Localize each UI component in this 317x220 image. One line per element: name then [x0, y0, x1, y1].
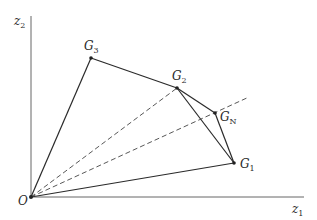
- point-origin: [29, 195, 33, 199]
- gn-label: GN: [220, 111, 237, 126]
- edge-o-g1: [31, 163, 234, 197]
- diagram-canvas: [0, 0, 317, 220]
- point-g1: [232, 161, 236, 165]
- edge-g3-g2: [91, 58, 177, 88]
- dashed-ray-o-g2: [31, 88, 177, 197]
- g2-label: G2: [172, 70, 187, 85]
- origin-label: O: [18, 195, 28, 207]
- point-g3: [89, 56, 93, 60]
- z1-axis-label: z1: [292, 203, 303, 218]
- point-g2: [175, 86, 179, 90]
- z2-axis-label: z2: [14, 15, 25, 30]
- edge-o-g3: [31, 58, 91, 197]
- g3-label: G3: [84, 40, 99, 55]
- edge-g2-gn: [177, 88, 215, 113]
- point-gn: [213, 111, 217, 115]
- g1-label: G1: [240, 158, 255, 173]
